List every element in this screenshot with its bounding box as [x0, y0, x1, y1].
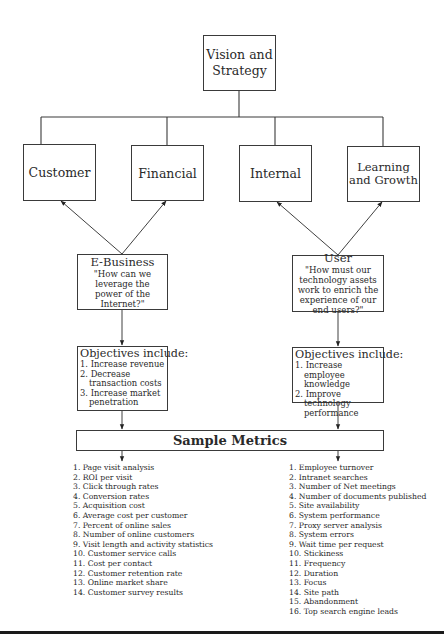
metric-item: 3. Number of Net meetings	[289, 482, 426, 492]
metric-item: 4. Conversion rates	[73, 492, 213, 502]
metric-item: 2. Intranet searches	[289, 473, 426, 483]
metric-item: 15. Abandonment	[289, 597, 426, 607]
objective-item: 3. Increase market penetration	[80, 389, 165, 408]
customer-label: Customer	[29, 165, 91, 180]
metric-item: 9. Visit length and activity statistics	[73, 540, 213, 550]
e-business-theme-box: E-Business "How can we leverage the powe…	[77, 254, 168, 310]
objectives-left-box: Objectives include: 1. Increase revenue …	[77, 346, 168, 411]
vision-and-strategy-box: Vision and Strategy	[203, 35, 276, 91]
metric-item: 7. Proxy server analysis	[289, 521, 426, 531]
metric-item: 9. Wait time per request	[289, 540, 426, 550]
metric-item: 10. Customer service calls	[73, 549, 213, 559]
metric-item: 12. Duration	[289, 569, 426, 579]
metric-item: 1. Page visit analysis	[73, 463, 213, 473]
metric-item: 1. Employee turnover	[289, 463, 426, 473]
e-business-question: "How can we leverage the power of the In…	[80, 269, 165, 309]
user-title: User	[324, 252, 352, 265]
internal-label: Internal	[250, 166, 301, 181]
internal-perspective-box: Internal	[239, 145, 312, 202]
sample-metrics-bar: Sample Metrics	[76, 430, 384, 451]
metric-item: 14. Customer survey results	[73, 588, 213, 598]
metric-item: 8. Number of online customers	[73, 530, 213, 540]
metric-item: 5. Acquisition cost	[73, 501, 213, 511]
metric-item: 13. Online market share	[73, 578, 213, 588]
learning-growth-perspective-box: Learning and Growth	[347, 146, 420, 202]
objective-item: 2. Improve technology performance	[295, 390, 381, 419]
metric-item: 2. ROI per visit	[73, 473, 213, 483]
e-business-title: E-Business	[91, 256, 155, 269]
metric-item: 7. Percent of online sales	[73, 521, 213, 531]
financial-label: Financial	[138, 166, 197, 181]
metrics-left-list: 1. Page visit analysis 2. ROI per visit …	[73, 463, 213, 597]
user-question: "How must our technology assets work to …	[294, 265, 382, 315]
metric-item: 14. Site path	[289, 588, 426, 598]
bottom-rule-divider	[0, 631, 444, 634]
metrics-right-list: 1. Employee turnover 2. Intranet searche…	[289, 463, 426, 617]
sample-metrics-title: Sample Metrics	[173, 433, 287, 448]
vision-line2: Strategy	[212, 63, 267, 79]
objective-item: 1. Increase employee knowledge	[295, 361, 381, 390]
metric-item: 5. Site availability	[289, 501, 426, 511]
objective-item: 2. Decrease transaction costs	[80, 370, 165, 389]
user-theme-box: User "How must our technology assets wor…	[292, 255, 384, 312]
financial-perspective-box: Financial	[131, 145, 204, 201]
metric-item: 16. Top search engine leads	[289, 607, 426, 617]
objectives-right-list: 1. Increase employee knowledge 2. Improv…	[295, 361, 381, 419]
objectives-right-box: Objectives include: 1. Increase employee…	[292, 347, 384, 403]
metric-item: 13. Focus	[289, 578, 426, 588]
metric-item: 11. Cost per contact	[73, 559, 213, 569]
learning-line2: and Growth	[349, 174, 418, 187]
vision-line1: Vision and	[206, 47, 272, 63]
customer-perspective-box: Customer	[23, 144, 96, 201]
objectives-left-list: 1. Increase revenue 2. Decrease transact…	[80, 360, 165, 408]
metric-item: 8. System errors	[289, 530, 426, 540]
metric-item: 12. Customer retention rate	[73, 569, 213, 579]
metric-item: 6. Average cost per customer	[73, 511, 213, 521]
metric-item: 3. Click through rates	[73, 482, 213, 492]
metric-item: 10. Stickiness	[289, 549, 426, 559]
metric-item: 11. Frequency	[289, 559, 426, 569]
metric-item: 6. System performance	[289, 511, 426, 521]
metric-item: 4. Number of documents published	[289, 492, 426, 502]
